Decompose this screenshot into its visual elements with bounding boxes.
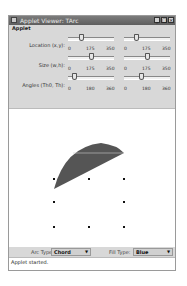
size-label: Size (w,h):: [39, 62, 65, 68]
angle-start-ticks: 0 180 360: [68, 86, 114, 91]
slider-thumb[interactable]: [145, 53, 150, 60]
arc-drawing: [9, 109, 175, 248]
status-text: Applet started.: [11, 259, 48, 266]
slider-thumb[interactable]: [72, 73, 77, 80]
title-bar[interactable]: Applet Viewer: TArc _ □ ×: [9, 16, 175, 25]
menu-applet[interactable]: Applet: [12, 25, 31, 32]
location-label: Location (x,y):: [29, 42, 65, 48]
location-x-ticks: 0 175 350: [68, 46, 114, 51]
slider-thumb[interactable]: [139, 73, 144, 80]
options-bar: Arc Type: Chord ▼ Fill Type: Blue ▼: [9, 247, 175, 257]
location-x-slider[interactable]: [68, 35, 114, 41]
slider-thumb[interactable]: [79, 34, 84, 41]
java-cup-icon: [11, 17, 17, 23]
size-h-slider[interactable]: [124, 54, 170, 60]
arc-type-select[interactable]: Chord ▼: [51, 248, 91, 256]
minimize-button[interactable]: _: [154, 17, 160, 23]
fill-type-value: Blue: [136, 249, 148, 255]
angles-label: Angles (Th0, Th):: [22, 82, 65, 88]
maximize-button[interactable]: □: [161, 17, 167, 23]
grid-points: [53, 178, 125, 228]
angle-extent-slider[interactable]: [124, 74, 170, 80]
fill-type-select[interactable]: Blue ▼: [133, 248, 173, 256]
status-bar: Applet started.: [9, 257, 175, 270]
slider-thumb[interactable]: [134, 34, 139, 41]
arc-type-value: Chord: [54, 249, 71, 255]
angle-extent-ticks: 0 180 360: [124, 86, 170, 91]
size-w-slider[interactable]: [68, 54, 114, 60]
size-w-ticks: 0 175 350: [68, 66, 114, 71]
chord-shape: [54, 143, 124, 189]
chevron-down-icon: ▼: [167, 249, 170, 255]
location-y-slider[interactable]: [124, 35, 170, 41]
slider-thumb[interactable]: [89, 53, 94, 60]
size-h-ticks: 0 175 350: [124, 66, 170, 71]
drawing-canvas[interactable]: [9, 108, 175, 248]
angle-start-slider[interactable]: [68, 74, 114, 80]
close-button[interactable]: ×: [168, 17, 174, 23]
location-y-ticks: 0 175 350: [124, 46, 170, 51]
applet-viewer-window: Applet Viewer: TArc _ □ × Applet Locatio…: [8, 15, 176, 271]
controls-panel: Location (x,y): 0 175 350 0 175 350 Size…: [9, 32, 175, 108]
menu-bar: Applet: [9, 25, 175, 32]
fill-type-label: Fill Type:: [109, 247, 130, 257]
slider-track: [124, 37, 170, 41]
chevron-down-icon: ▼: [85, 249, 88, 255]
slider-track: [68, 37, 114, 41]
window-title: Applet Viewer: TArc: [20, 16, 79, 25]
slider-track: [124, 76, 170, 80]
